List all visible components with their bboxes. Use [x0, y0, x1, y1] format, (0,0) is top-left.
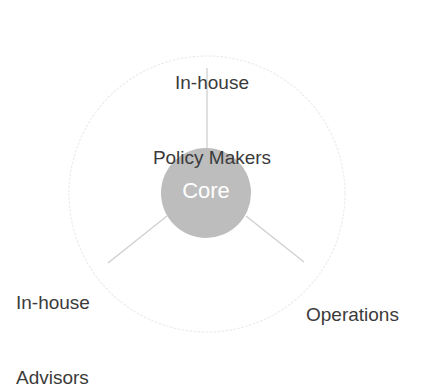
- node-label-policy-makers-line2: Policy Makers: [0, 145, 424, 170]
- node-label-advisors[interactable]: In-house Advisors: [16, 240, 90, 388]
- node-label-operations[interactable]: Operations: [306, 252, 399, 377]
- node-label-policy-makers[interactable]: In-house Policy Makers: [0, 20, 424, 220]
- node-label-policy-makers-line1: In-house: [0, 70, 424, 95]
- node-label-advisors-line2: Advisors: [16, 365, 90, 388]
- spoke-line-advisors: [108, 216, 167, 263]
- node-label-operations-line1: Operations: [306, 302, 399, 327]
- node-label-advisors-line1: In-house: [16, 290, 90, 315]
- spoke-line-operations: [246, 216, 304, 262]
